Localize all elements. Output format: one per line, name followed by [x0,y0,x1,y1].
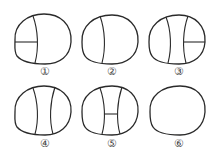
shape-6-outline [150,86,205,135]
shape-1 [15,14,71,64]
shape-1-outline [15,14,71,64]
shape-3-label: ③ [169,66,189,78]
shape-4-label: ④ [35,138,55,150]
shape-4-outline [15,86,71,135]
shape-6-label: ⑥ [169,138,189,150]
shape-5 [82,86,138,135]
shape-3-left-vertical-divider [166,17,170,63]
shape-5-outline [82,86,138,135]
shape-5-left-vertical-divider [100,88,104,134]
shape-3-right-vertical-divider [184,16,188,63]
shape-5-label: ⑤ [102,138,122,150]
shape-1-vertical-divider [33,16,37,63]
shape-6 [150,86,205,135]
shape-3 [149,15,205,64]
figure-canvas [0,0,214,158]
shape-3-outline [149,15,205,64]
shape-2-label: ② [102,66,122,78]
shape-4-left-vertical-divider [33,88,37,134]
shape-4 [15,86,71,135]
shape-1-label: ① [35,66,55,78]
shape-2-outline [82,15,138,64]
shape-5-right-vertical-divider [118,87,122,134]
shape-2 [82,15,138,64]
shape-2-vertical-divider [100,16,104,63]
shape-4-right-vertical-divider [51,87,55,134]
